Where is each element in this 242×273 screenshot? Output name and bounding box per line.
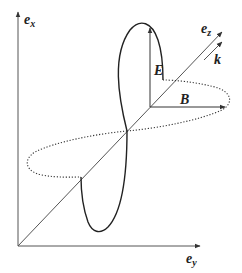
ez-axis [18,32,222,246]
ez-label: ez [201,21,211,38]
e-field-wave-lower [81,131,127,232]
b-field-wave-lower [27,131,127,177]
ey-label: ey [186,251,197,268]
em-wave-diagram: ex ey ez k E B [0,0,242,273]
b-field-label: B [179,92,189,107]
k-label: k [214,52,221,67]
b-field-wave-upper [127,80,230,131]
e-field-label: E [153,63,163,78]
ex-label: ex [24,12,35,29]
